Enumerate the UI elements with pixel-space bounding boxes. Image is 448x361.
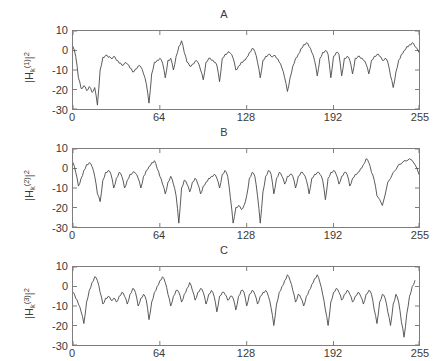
panel-a-series-svg xyxy=(73,31,419,109)
panel-b-title: B xyxy=(0,126,448,138)
panel-c-ytick-2: -10 xyxy=(42,301,68,312)
panel-a-ytick-3: -20 xyxy=(42,85,68,96)
ylabel-post: | xyxy=(23,174,35,177)
panel-b-ytick-3: -20 xyxy=(42,203,68,214)
subplot-panel-a: A |Hk(1)|2 10 0 -10 -20 -30 0 64 128 192… xyxy=(0,0,448,120)
panel-a-ytick-2: -10 xyxy=(42,65,68,76)
panel-b-ylabel: |Hk(2)|2 xyxy=(22,151,37,221)
ylabel-pre: |H xyxy=(23,72,35,83)
panel-b-ytick-4: -30 xyxy=(42,223,68,234)
panel-c-ytick-1: 0 xyxy=(42,281,68,292)
ylabel-sub: k xyxy=(28,304,37,308)
panel-b-ytick-1: 0 xyxy=(42,163,68,174)
panel-c-ytick-4: -30 xyxy=(42,341,68,352)
panel-b-ytick-2: -10 xyxy=(42,183,68,194)
ylabel-exp: 2 xyxy=(22,288,31,292)
ylabel-exp: 2 xyxy=(22,170,31,174)
panel-c-title: C xyxy=(0,244,448,256)
panel-b-series-svg xyxy=(73,149,419,227)
panel-c-series-svg xyxy=(73,267,419,345)
subplot-panel-c: C |Hk(3)|2 10 0 -10 -20 -30 0 64 128 192… xyxy=(0,236,448,361)
panel-c-xtick-2: 128 xyxy=(237,348,255,359)
series-line xyxy=(73,159,419,223)
panel-c-xtick-4: 255 xyxy=(411,348,429,359)
figure-canvas: A |Hk(1)|2 10 0 -10 -20 -30 0 64 128 192… xyxy=(0,0,448,361)
panel-c-xtick-0: 0 xyxy=(69,348,75,359)
ylabel-post: | xyxy=(23,56,35,59)
ylabel-post: | xyxy=(23,292,35,295)
series-line xyxy=(73,275,415,337)
ylabel-sub: k xyxy=(28,68,37,72)
ylabel-sup: (3) xyxy=(22,295,31,304)
panel-a-ytick-0: 10 xyxy=(42,25,68,36)
panel-a-ytick-4: -30 xyxy=(42,105,68,116)
ylabel-pre: |H xyxy=(23,308,35,319)
panel-c-xtick-1: 64 xyxy=(153,348,165,359)
panel-c-plot-area xyxy=(72,266,420,346)
panel-b-plot-area xyxy=(72,148,420,228)
panel-b-ytick-0: 10 xyxy=(42,143,68,154)
panel-a-ytick-1: 0 xyxy=(42,45,68,56)
panel-c-ytick-3: -20 xyxy=(42,321,68,332)
panel-a-title: A xyxy=(0,8,448,20)
panel-c-xtick-3: 192 xyxy=(324,348,342,359)
ylabel-sub: k xyxy=(28,186,37,190)
ylabel-pre: |H xyxy=(23,190,35,201)
series-line xyxy=(73,41,419,105)
ylabel-sup: (2) xyxy=(22,177,31,186)
ylabel-sup: (1) xyxy=(22,59,31,68)
ylabel-exp: 2 xyxy=(22,52,31,56)
panel-c-ytick-0: 10 xyxy=(42,261,68,272)
subplot-panel-b: B |Hk(2)|2 10 0 -10 -20 -30 0 64 128 192… xyxy=(0,118,448,238)
panel-a-plot-area xyxy=(72,30,420,110)
panel-a-ylabel: |Hk(1)|2 xyxy=(22,33,37,103)
panel-c-ylabel: |Hk(3)|2 xyxy=(22,269,37,339)
